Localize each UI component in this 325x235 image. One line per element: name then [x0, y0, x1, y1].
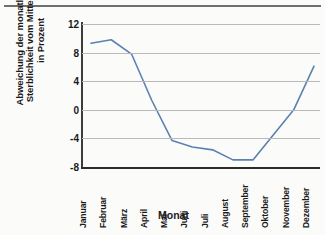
x-tick-label: November	[281, 187, 291, 228]
x-axis-tick-labels: JanuarFebruarMärzAprilMaiJuniJuliAugustS…	[82, 170, 320, 228]
series-polyline	[91, 40, 314, 160]
x-tick-label: Januar	[78, 200, 88, 228]
chart-figure: Abweichung der monatlichen Sterblichkeit…	[0, 0, 325, 235]
y-tick-label: 4	[73, 76, 79, 87]
y-tick-label: -4	[70, 133, 79, 144]
series-line-abweichung	[82, 24, 320, 167]
x-tick-label: September	[240, 184, 250, 228]
gridline	[82, 53, 320, 54]
gridline	[82, 81, 320, 82]
x-tick-label: April	[139, 209, 149, 228]
y-tick-label: 8	[73, 47, 79, 58]
gridline	[82, 138, 320, 139]
y-axis-tick-labels: 12840-4-8	[55, 18, 79, 173]
y-axis-title-line-3: in Prozent	[35, 18, 46, 63]
gridline	[82, 24, 320, 25]
x-tick-label: August	[220, 199, 230, 228]
x-tick-label: Juli	[200, 214, 210, 228]
x-tick-label: Dezember	[301, 188, 311, 228]
x-axis-line	[81, 167, 320, 169]
y-tick-label: -8	[70, 162, 79, 173]
x-tick-label: Februar	[98, 197, 108, 228]
gridline	[82, 110, 320, 111]
x-tick-label: März	[119, 209, 129, 228]
y-tick-label: 12	[68, 19, 79, 30]
x-tick-label: Oktober	[260, 196, 270, 228]
plot-area	[82, 24, 320, 167]
y-axis-title: Abweichung der monatlichen Sterblichkeit…	[3, 0, 58, 121]
x-axis-title: Monat	[158, 209, 189, 221]
y-tick-label: 0	[73, 104, 79, 115]
